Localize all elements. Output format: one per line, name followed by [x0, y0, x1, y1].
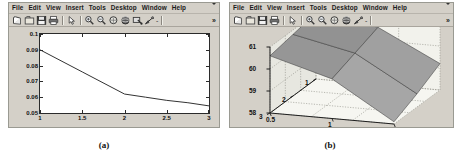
y-tick-label: 0.07	[26, 78, 38, 84]
insert-colorbar-icon[interactable]	[144, 15, 155, 26]
y-tick-mark-right	[206, 66, 209, 67]
tool-bar-a: - »	[9, 14, 219, 27]
zoom-in-icon[interactable]	[305, 15, 316, 26]
toolbar-overflow-icon[interactable]: »	[212, 18, 216, 23]
menu-bar-b: File Edit View Insert Tools Desktop Wind…	[230, 3, 453, 14]
y-tick-mark-right	[206, 81, 209, 82]
x-tick-mark	[125, 110, 126, 113]
toolbar-separator-3	[161, 16, 163, 25]
x-tick-mark	[167, 110, 168, 113]
edit-plot-icon[interactable]	[287, 15, 298, 26]
x-tick-label: 0.5	[266, 117, 275, 124]
zoom-in-icon[interactable]	[84, 15, 95, 26]
y-tick-label: 1	[305, 80, 309, 87]
zoom-out-icon[interactable]	[317, 15, 328, 26]
print-figure-icon[interactable]	[48, 15, 59, 26]
y-tick-mark	[40, 50, 43, 51]
save-figure-icon[interactable]	[257, 15, 268, 26]
new-figure-icon[interactable]	[233, 15, 244, 26]
z-tick-label: 61	[249, 44, 256, 51]
menu-item-help[interactable]: Help	[393, 5, 407, 11]
x-tick-mark	[208, 110, 209, 113]
print-figure-icon[interactable]	[269, 15, 280, 26]
x-tick-label: 2	[123, 115, 126, 121]
new-figure-icon[interactable]	[12, 15, 23, 26]
toolbar-separator-1	[62, 16, 64, 25]
y-tick-mark-right	[206, 97, 209, 98]
menu-item-view[interactable]: View	[46, 5, 61, 11]
data-line-series-a	[40, 34, 209, 113]
y-tick-label: 0.1	[30, 31, 38, 37]
x-tick-mark-top	[208, 34, 209, 37]
x-tick-mark-top	[125, 34, 126, 37]
menu-overflow-chevron-down-icon[interactable]	[211, 6, 216, 11]
z-tick-label: 59	[249, 88, 256, 95]
menu-item-insert[interactable]: Insert	[287, 5, 305, 11]
insert-colorbar-icon[interactable]	[353, 15, 364, 26]
toolbar-dash-label: -	[365, 16, 367, 25]
z-tick-label: 60	[249, 66, 256, 73]
y-tick-mark	[40, 66, 43, 67]
menu-item-help[interactable]: Help	[172, 5, 186, 11]
menu-overflow-chevron-down-icon[interactable]	[445, 6, 450, 11]
figure-canvas-b: 585960611230.511.5	[230, 27, 453, 127]
menu-item-window[interactable]: Window	[142, 5, 167, 11]
menu-item-file[interactable]: File	[233, 5, 244, 11]
surface-plot-b	[230, 27, 453, 127]
menu-item-desktop[interactable]: Desktop	[111, 5, 137, 11]
menu-item-desktop[interactable]: Desktop	[332, 5, 358, 11]
y-tick-label: 0.05	[26, 110, 38, 116]
y-tick-mark-right	[206, 50, 209, 51]
toolbar-overflow-icon[interactable]: »	[446, 18, 450, 23]
plot-axes-b: 585960611230.511.5	[230, 27, 453, 127]
subfigure-caption-a: (a)	[84, 140, 124, 150]
menu-item-edit[interactable]: Edit	[28, 5, 40, 11]
menu-item-tools[interactable]: Tools	[89, 5, 106, 11]
plot-axes-a: 0.050.060.070.080.090.111.522.53	[39, 33, 210, 114]
toolbar-separator-1	[283, 16, 285, 25]
data-cursor-icon[interactable]	[132, 15, 143, 26]
y-tick-label: 0.09	[26, 47, 38, 53]
open-file-icon[interactable]	[245, 15, 256, 26]
y-tick-label: 2	[282, 97, 286, 104]
y-tick-mark	[40, 81, 43, 82]
menu-item-edit[interactable]: Edit	[249, 5, 261, 11]
pan-icon[interactable]	[329, 15, 340, 26]
menu-item-view[interactable]: View	[267, 5, 282, 11]
save-figure-icon[interactable]	[36, 15, 47, 26]
menu-item-window[interactable]: Window	[363, 5, 388, 11]
menu-bar-a: File Edit View Insert Tools Desktop Wind…	[9, 3, 219, 14]
x-tick-label: 1.5	[78, 115, 86, 121]
rotate-3d-icon[interactable]	[120, 15, 131, 26]
y-tick-label: 3	[259, 114, 263, 121]
x-tick-label: 1	[328, 122, 332, 127]
x-tick-mark-top	[82, 34, 83, 37]
pan-icon[interactable]	[108, 15, 119, 26]
toolbar-dash-label: -	[156, 16, 158, 25]
y-tick-mark	[40, 97, 43, 98]
x-tick-mark-top	[167, 34, 168, 37]
tool-bar-b: - »	[230, 14, 453, 27]
y-tick-label: 0.08	[26, 63, 38, 69]
x-tick-label: 3	[207, 115, 210, 121]
figure-canvas-a: 0.050.060.070.080.090.111.522.53	[9, 27, 219, 127]
menu-item-insert[interactable]: Insert	[66, 5, 84, 11]
toolbar-separator-2	[80, 16, 82, 25]
rotate-3d-icon[interactable]	[341, 15, 352, 26]
menu-item-tools[interactable]: Tools	[310, 5, 327, 11]
y-tick-label: 0.06	[26, 94, 38, 100]
z-tick-label: 58	[249, 110, 256, 117]
open-file-icon[interactable]	[24, 15, 35, 26]
toolbar-separator-2	[301, 16, 303, 25]
edit-plot-icon[interactable]	[66, 15, 77, 26]
figure-pair-container: File Edit View Insert Tools Desktop Wind…	[0, 0, 459, 161]
toolbar-separator-3	[370, 16, 372, 25]
zoom-out-icon[interactable]	[96, 15, 107, 26]
x-tick-mark	[82, 110, 83, 113]
x-tick-mark	[40, 110, 41, 113]
menu-item-file[interactable]: File	[12, 5, 23, 11]
matlab-figure-window-a: File Edit View Insert Tools Desktop Wind…	[8, 2, 220, 128]
subfigure-caption-b: (b)	[310, 140, 350, 150]
x-tick-label: 1	[38, 115, 41, 121]
x-tick-mark-top	[40, 34, 41, 37]
